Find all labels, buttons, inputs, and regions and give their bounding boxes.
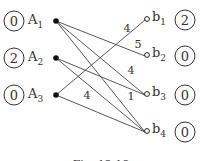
node-b4: b40 xyxy=(145,121,195,142)
vertex-dot xyxy=(145,92,150,97)
node-label: b3 xyxy=(152,84,166,102)
node-value: 0 xyxy=(10,88,18,103)
node-A1: 0A1 xyxy=(4,11,59,31)
edge-weight-label: 5 xyxy=(135,38,142,51)
node-label: A3 xyxy=(27,86,43,104)
node-value: 0 xyxy=(10,14,18,29)
vertex-dot xyxy=(145,17,150,22)
vertex-dot xyxy=(53,18,59,24)
left-nodes: 0A12A20A3 xyxy=(4,11,59,105)
vertex-dot xyxy=(53,55,59,61)
node-b1: b12 xyxy=(145,9,195,30)
edge-A1-b2 xyxy=(56,21,145,56)
node-value: 2 xyxy=(10,51,18,66)
figure-caption: Fig. 12.18 xyxy=(73,158,130,161)
node-value: 0 xyxy=(181,49,189,64)
node-value: 0 xyxy=(181,88,189,103)
edge-weight-label: 4 xyxy=(84,89,91,102)
node-value: 2 xyxy=(181,13,189,28)
vertex-dot xyxy=(145,129,150,134)
vertex-dot xyxy=(53,92,59,98)
edge-weight-label: 4 xyxy=(128,64,135,77)
node-b2: b20 xyxy=(145,45,195,66)
node-label: b1 xyxy=(152,9,166,27)
node-label: b4 xyxy=(152,121,166,139)
node-A2: 2A2 xyxy=(4,48,59,68)
edge-weight-label: 4 xyxy=(124,22,131,35)
node-value: 0 xyxy=(181,125,189,140)
node-label: A2 xyxy=(27,49,43,67)
node-label: A1 xyxy=(27,12,43,30)
node-label: b2 xyxy=(152,45,166,63)
edge-weight-label: 1 xyxy=(128,90,135,103)
bipartite-graph: 45414 0A12A20A3 b12b20b30b40 Fig. 12.18 xyxy=(0,0,203,161)
node-b3: b30 xyxy=(145,84,195,105)
vertex-dot xyxy=(145,53,150,58)
right-nodes: b12b20b30b40 xyxy=(145,9,195,142)
node-A3: 0A3 xyxy=(4,85,59,105)
